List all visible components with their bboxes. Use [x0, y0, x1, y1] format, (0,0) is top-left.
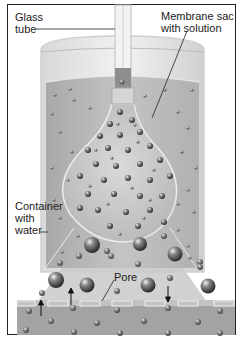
- container-label: Container with water: [15, 200, 63, 236]
- membrane-sac-label: Membrane sac with solution: [161, 10, 234, 34]
- osmosis-diagram: Glass tube Membrane sac with solution Co…: [0, 0, 244, 339]
- pore-label: Pore: [114, 271, 137, 283]
- glass-tube-label: Glass tube: [15, 11, 43, 35]
- diagram-illustration: [0, 0, 244, 339]
- glass-tube: [112, 5, 134, 104]
- membrane-strip: [17, 300, 235, 336]
